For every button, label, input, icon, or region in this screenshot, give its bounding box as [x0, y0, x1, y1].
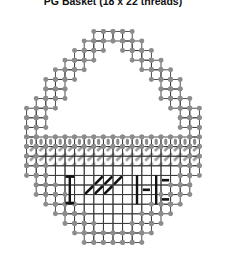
- basket-pattern-svg: [0, 8, 226, 266]
- pattern-chart: [0, 8, 226, 266]
- page-title: PG Basket (18 x 22 threads): [0, 0, 226, 7]
